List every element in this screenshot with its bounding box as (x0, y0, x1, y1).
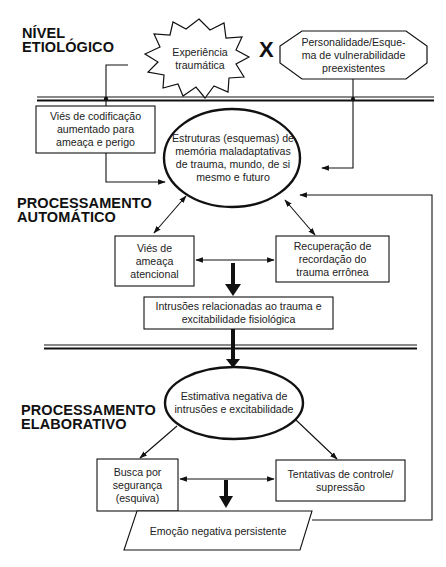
level-label-elaborative: PROCESSAMENTO ELABORATIVO (21, 403, 156, 431)
encoding-bias-label: Viés de codificação aumentado para ameaç… (36, 106, 155, 153)
edge-encoding-to-memory (106, 153, 165, 182)
intrusions-label: Intrusões relacionadas ao trauma e excit… (144, 297, 333, 329)
safety-seeking-label: Busca por segurança (esquiva) (97, 459, 178, 511)
traumatic-experience-label: Experiência traumática (155, 44, 245, 74)
memory-structures-label: Estruturas (esquemas) de memória maladap… (170, 127, 296, 189)
divider-automatic-elaborative (44, 345, 417, 349)
level-label-automatic: PROCESSAMENTO AUTOMÁTICO (17, 196, 152, 224)
bold-arrow-to-intrusions (225, 263, 241, 296)
memory-retrieval-label: Recuperação de recordação do trauma errô… (276, 236, 389, 282)
bold-arrow-to-emotion (219, 480, 233, 508)
edge-vulnerability-to-memory (322, 79, 353, 168)
divider-etiological-automatic (37, 97, 434, 101)
edge-memory-attentional (154, 196, 186, 233)
edge-memory-retrieval (285, 200, 315, 235)
negative-appraisal-label: Estimativa negativa de intrusões e excit… (165, 388, 303, 418)
interaction-operator: X (259, 37, 274, 63)
control-attempts-label: Tentativas de controle/ supressão (276, 460, 405, 501)
level-label-etiological: NÍVEL ETIOLÓGICO (22, 26, 114, 54)
vulnerability-schema-label: Personalidade/Esque- ma de vulnerabilida… (280, 33, 427, 77)
edge-appraisal-control (296, 420, 337, 459)
attentional-bias-label: Viés de ameaça atencional (115, 236, 194, 286)
persistent-emotion-label: Emoção negativa persistente (130, 522, 306, 540)
